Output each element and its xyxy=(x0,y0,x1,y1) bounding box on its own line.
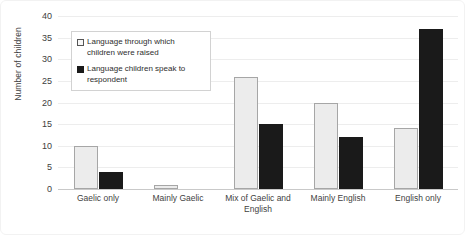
bar-raised xyxy=(154,185,178,189)
bar-raised xyxy=(394,128,418,189)
bar-speak xyxy=(339,137,363,189)
gridline xyxy=(58,189,458,190)
y-axis-tick-label: 25 xyxy=(42,76,52,85)
bar-raised xyxy=(234,77,258,189)
x-axis-tick-label: English only xyxy=(378,193,458,215)
y-axis-title: Number of children xyxy=(13,9,23,119)
y-axis-tick-label: 30 xyxy=(42,55,52,64)
bar-pair xyxy=(218,16,298,189)
open-square-icon xyxy=(77,39,84,46)
y-axis-tick-label: 15 xyxy=(42,120,52,129)
y-axis-tick-label: 20 xyxy=(42,98,52,107)
y-axis-tick-label: 35 xyxy=(42,33,52,42)
bar-group xyxy=(378,16,458,189)
chart-legend: Language through which children were rai… xyxy=(71,31,211,91)
x-axis-tick-label: Mix of Gaelic and English xyxy=(218,193,298,215)
legend-item: Language through which children were rai… xyxy=(77,37,204,58)
bar-raised xyxy=(314,103,338,190)
bar-chart-figure: Number of children 4035302520151050 Gael… xyxy=(0,0,465,235)
legend-item-label: Language through which children were rai… xyxy=(87,37,204,58)
bar-group xyxy=(298,16,378,189)
y-axis-tick-label: 40 xyxy=(42,12,52,21)
legend-item-label: Language children speak to respondent xyxy=(87,64,204,85)
bar-speak xyxy=(259,124,283,189)
y-axis-tick-label: 5 xyxy=(47,163,52,172)
y-axis-tick-label: 10 xyxy=(42,141,52,150)
bar-pair xyxy=(378,16,458,189)
x-axis-tick-label: Mainly Gaelic xyxy=(138,193,218,215)
y-axis-tick-label: 0 xyxy=(47,185,52,194)
x-axis-tick-label: Gaelic only xyxy=(58,193,138,215)
bar-speak xyxy=(99,172,123,189)
bar-pair xyxy=(298,16,378,189)
bar-speak xyxy=(419,29,443,189)
x-axis-tick-label: Mainly English xyxy=(298,193,378,215)
filled-square-icon xyxy=(77,66,84,73)
x-axis-labels: Gaelic onlyMainly GaelicMix of Gaelic an… xyxy=(58,193,458,215)
legend-item: Language children speak to respondent xyxy=(77,64,204,85)
bar-raised xyxy=(74,146,98,189)
bar-group xyxy=(218,16,298,189)
